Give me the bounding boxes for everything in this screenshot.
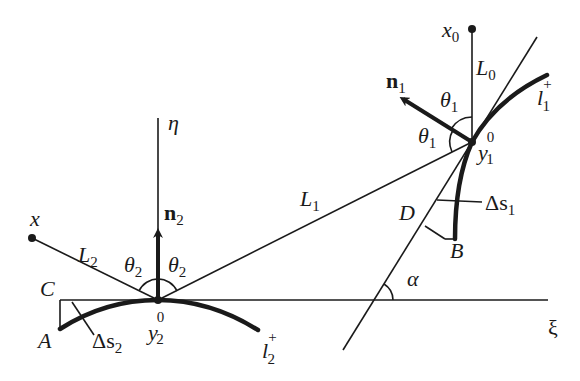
segment-DB — [425, 226, 445, 239]
point-x — [28, 234, 36, 242]
label-theta2-left: θ2 — [124, 252, 142, 280]
label-alpha: α — [407, 266, 419, 291]
label-B: B — [450, 238, 463, 263]
angle-alpha-arc — [384, 284, 393, 300]
delta-s1-leader — [437, 200, 482, 202]
line-L1 — [158, 142, 472, 300]
reflection-diagram: η ξ n2 x L2 θ2 θ2 C A Δs2 y02 l+2 L1 x0 … — [0, 0, 580, 381]
label-A: A — [36, 328, 52, 353]
label-y2-0: y02 — [146, 309, 164, 347]
angle-theta1-left-arc — [450, 130, 453, 152]
label-theta2-right: θ2 — [168, 252, 186, 280]
label-theta1-left: θ1 — [418, 123, 436, 151]
label-x0: x0 — [441, 17, 459, 45]
label-eta: η — [168, 110, 179, 135]
label-L2: L2 — [77, 242, 98, 270]
angle-theta1-top-arc — [451, 117, 472, 129]
vector-n1 — [403, 99, 472, 142]
point-y2-0 — [154, 296, 162, 304]
label-delta-s1: Δs1 — [485, 190, 515, 218]
label-x: x — [29, 206, 40, 231]
label-delta-s2: Δs2 — [92, 328, 122, 356]
label-xi: ξ — [548, 315, 558, 340]
diagram-svg: η ξ n2 x L2 θ2 θ2 C A Δs2 y02 l+2 L1 x0 … — [0, 0, 580, 381]
label-l2-plus: l+2 — [262, 329, 277, 367]
label-L0: L0 — [475, 55, 496, 83]
point-y1-0 — [468, 138, 476, 146]
label-theta1-top: θ1 — [440, 87, 458, 115]
label-n2: n2 — [164, 200, 184, 228]
label-D: D — [398, 200, 415, 225]
label-l1-plus: l+1 — [537, 76, 552, 114]
label-n1: n1 — [386, 68, 406, 96]
label-L1: L1 — [299, 186, 320, 214]
label-C: C — [40, 276, 55, 301]
point-x0 — [468, 25, 476, 33]
tangent-line-y1 — [343, 37, 537, 350]
